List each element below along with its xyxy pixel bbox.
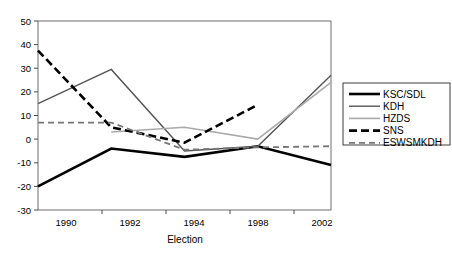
x-tick-label: 2002 <box>311 217 332 228</box>
chart-figure: 50 40 30 20 10 0 -10 -20 -30 1990 1992 1… <box>0 0 452 255</box>
x-tick-label: 1994 <box>183 217 204 228</box>
line-chart-svg: 50 40 30 20 10 0 -10 -20 -30 1990 1992 1… <box>0 0 452 255</box>
y-tick-label: 10 <box>20 110 31 121</box>
legend-label: SNS <box>383 125 404 136</box>
legend-label: ESWSMKDH <box>383 137 442 148</box>
y-tick-label: 40 <box>20 39 31 50</box>
legend-label: KDH <box>383 101 404 112</box>
y-tick-label: 50 <box>20 16 31 27</box>
legend-label: KSC/SDL <box>383 89 426 100</box>
y-tick-label: 0 <box>26 134 31 145</box>
x-axis-title: Election <box>167 234 203 245</box>
legend-label: HZDS <box>383 113 411 124</box>
y-tick-label: 20 <box>20 86 31 97</box>
x-tick-label: 1990 <box>55 217 76 228</box>
y-tick-label: 30 <box>20 63 31 74</box>
x-tick-label: 1992 <box>119 217 140 228</box>
y-tick-label: -30 <box>17 205 31 216</box>
y-tick-label: -10 <box>17 157 31 168</box>
legend: KSC/SDLKDHHZDSSNSESWSMKDH <box>343 83 450 148</box>
y-tick-label: -20 <box>17 181 31 192</box>
x-tick-label: 1998 <box>247 217 268 228</box>
